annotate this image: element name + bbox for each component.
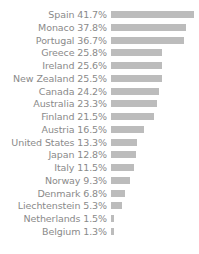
bar-row: Denmark 6.8% — [0, 187, 199, 200]
bar-row: Norway 9.3% — [0, 174, 199, 187]
bar-track — [107, 187, 199, 200]
bar — [111, 100, 157, 107]
bar-row: Netherlands 1.5% — [0, 212, 199, 225]
bar — [111, 215, 114, 222]
bar-track — [107, 136, 199, 149]
bar-row: Ireland 25.6% — [0, 59, 199, 72]
bar-row: Finland 21.5% — [0, 110, 199, 123]
bar-row-label: Australia 23.3% — [0, 97, 107, 110]
bar-track — [107, 21, 199, 34]
bar-row-label: Portugal 36.7% — [0, 34, 107, 47]
bar-row: United States 13.3% — [0, 136, 199, 149]
bar-row-label: Monaco 37.8% — [0, 21, 107, 34]
bar-row-label: Finland 21.5% — [0, 110, 107, 123]
bar — [111, 139, 137, 146]
bar — [111, 177, 130, 184]
bar-row: Monaco 37.8% — [0, 21, 199, 34]
bar — [111, 24, 186, 31]
bar — [111, 49, 162, 56]
bar-track — [107, 212, 199, 225]
bar-row-label: Liechtenstein 5.3% — [0, 199, 107, 212]
bar — [111, 228, 114, 235]
bar-row: Australia 23.3% — [0, 97, 199, 110]
bar-track — [107, 46, 199, 59]
bar-row-label: Greece 25.8% — [0, 46, 107, 59]
bar — [111, 202, 122, 209]
bar-row-label: Norway 9.3% — [0, 174, 107, 187]
bar-row-label: Ireland 25.6% — [0, 59, 107, 72]
bar-track — [107, 161, 199, 174]
bar-track — [107, 59, 199, 72]
bar — [111, 190, 125, 197]
bar-row-label: Spain 41.7% — [0, 8, 107, 21]
bar — [111, 11, 194, 18]
horizontal-bar-chart: Spain 41.7%Monaco 37.8%Portugal 36.7%Gre… — [0, 0, 199, 254]
bar-row: Spain 41.7% — [0, 8, 199, 21]
bar-track — [107, 110, 199, 123]
bar-row: Portugal 36.7% — [0, 34, 199, 47]
bar-row: Belgium 1.3% — [0, 225, 199, 238]
bar-row: Liechtenstein 5.3% — [0, 199, 199, 212]
bar-track — [107, 123, 199, 136]
bar — [111, 88, 159, 95]
bar-row-label: Austria 16.5% — [0, 123, 107, 136]
bar-row: Japan 12.8% — [0, 148, 199, 161]
bar-track — [107, 148, 199, 161]
bar-track — [107, 97, 199, 110]
bar — [111, 113, 154, 120]
bar-row-label: Japan 12.8% — [0, 148, 107, 161]
bar-track — [107, 34, 199, 47]
bar-row: New Zealand 25.5% — [0, 72, 199, 85]
bar-track — [107, 174, 199, 187]
bar — [111, 151, 136, 158]
bar-track — [107, 199, 199, 212]
bar-row: Italy 11.5% — [0, 161, 199, 174]
bar-row: Canada 24.2% — [0, 85, 199, 98]
bar-track — [107, 225, 199, 238]
bar-row-label: Belgium 1.3% — [0, 225, 107, 238]
bar — [111, 37, 184, 44]
bar — [111, 164, 134, 171]
bar-row-label: New Zealand 25.5% — [0, 72, 107, 85]
bar — [111, 126, 144, 133]
bar-row-label: Canada 24.2% — [0, 85, 107, 98]
bar-track — [107, 8, 199, 21]
bar-row-label: Italy 11.5% — [0, 161, 107, 174]
bar — [111, 62, 162, 69]
bar-row: Austria 16.5% — [0, 123, 199, 136]
bar — [111, 75, 162, 82]
bar-track — [107, 85, 199, 98]
bar-track — [107, 72, 199, 85]
bar-row-label: Netherlands 1.5% — [0, 212, 107, 225]
bar-row-label: United States 13.3% — [0, 136, 107, 149]
bar-row: Greece 25.8% — [0, 46, 199, 59]
bar-row-label: Denmark 6.8% — [0, 187, 107, 200]
